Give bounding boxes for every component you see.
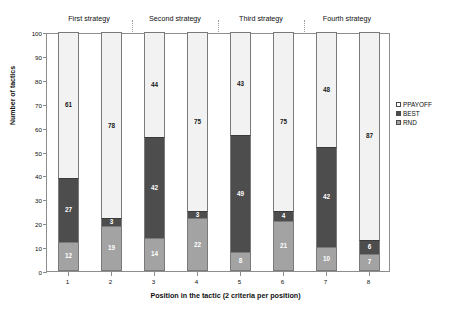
- bar-segment-rnd: 22: [187, 218, 208, 271]
- bar-segment-value: 61: [65, 102, 72, 108]
- bar-segment-value: 12: [65, 253, 72, 259]
- bar-column: 75421: [273, 32, 294, 271]
- bar-column: 78319: [101, 32, 122, 271]
- legend-label: PPAYOFF: [403, 101, 432, 108]
- x-tick-mark: [197, 272, 198, 276]
- chart-legend: PPAYOFFBESTRND: [396, 101, 432, 126]
- bar-segment-value: 21: [280, 243, 287, 249]
- bar-segment-ppayoff: 75: [273, 32, 294, 211]
- strategy-group-label: Second strategy: [149, 14, 201, 23]
- bar-segment-value: 75: [280, 119, 287, 125]
- bar-segment-best: 3: [187, 211, 208, 218]
- x-tick-mark: [283, 272, 284, 276]
- y-tick-label: 20: [18, 221, 42, 228]
- stacked-bar-chart: Number of tactics Position in the tactic…: [0, 0, 451, 310]
- x-tick-label: 3: [152, 278, 155, 285]
- bar-segment-rnd: 10: [316, 247, 337, 271]
- bar-segment-value: 6: [368, 244, 372, 250]
- bar-segment-rnd: 12: [58, 242, 79, 271]
- bar-segment-value: 7: [368, 259, 372, 265]
- bar-segment-rnd: 21: [273, 221, 294, 271]
- bar-segment-value: 48: [323, 87, 330, 93]
- legend-label: BEST: [403, 110, 420, 117]
- y-tick-label: 40: [18, 173, 42, 180]
- bar-segment-ppayoff: 43: [230, 32, 251, 135]
- x-tick-mark: [154, 272, 155, 276]
- bar-segment-best: 3: [101, 218, 122, 225]
- bar-segment-value: 10: [323, 256, 330, 262]
- legend-swatch-icon: [396, 102, 401, 107]
- y-tick-label: 70: [18, 101, 42, 108]
- bar-segment-value: 8: [239, 258, 243, 264]
- bar-segment-value: 19: [108, 245, 115, 251]
- legend-label: RND: [403, 119, 417, 126]
- x-tick-mark: [111, 272, 112, 276]
- bar-column: 612712: [58, 32, 79, 271]
- x-tick-mark: [240, 272, 241, 276]
- bar-column: 75322: [187, 32, 208, 271]
- legend-item[interactable]: BEST: [396, 110, 432, 117]
- bar-segment-value: 14: [151, 251, 158, 257]
- bar-segment-rnd: 7: [359, 254, 380, 271]
- y-tick-label: 100: [18, 30, 42, 37]
- bar-segment-value: 27: [65, 207, 72, 213]
- bar-segment-ppayoff: 87: [359, 32, 380, 240]
- x-tick-mark: [68, 272, 69, 276]
- x-axis-title: Position in the tactic (2 criteria per p…: [0, 291, 451, 300]
- bar-segment-best: 42: [144, 137, 165, 237]
- y-tick-label: 30: [18, 197, 42, 204]
- x-tick-mark: [369, 272, 370, 276]
- x-tick-label: 6: [281, 278, 284, 285]
- bar-segment-ppayoff: 78: [101, 32, 122, 218]
- bar-segment-ppayoff: 44: [144, 32, 165, 137]
- bar-segment-value: 49: [237, 191, 244, 197]
- bar-column: 43498: [230, 32, 251, 271]
- bar-segment-value: 78: [108, 123, 115, 129]
- bar-segment-ppayoff: 61: [58, 32, 79, 178]
- bar-segment-ppayoff: 48: [316, 32, 337, 147]
- x-tick-mark: [326, 272, 327, 276]
- bar-segment-rnd: 8: [230, 252, 251, 271]
- bar-segment-best: 6: [359, 240, 380, 254]
- bar-segment-value: 42: [151, 185, 158, 191]
- y-axis-title: Number of tactics: [9, 26, 16, 166]
- strategy-group-label: Third strategy: [239, 14, 283, 23]
- legend-swatch-icon: [396, 120, 401, 125]
- bar-segment-value: 4: [282, 213, 286, 219]
- x-tick-label: 1: [66, 278, 69, 285]
- bar-segment-value: 22: [194, 242, 201, 248]
- bar-column: 484210: [316, 32, 337, 271]
- bar-column: 8767: [359, 32, 380, 271]
- strategy-group-label: Fourth strategy: [323, 14, 371, 23]
- bar-segment-rnd: 19: [101, 226, 122, 271]
- x-tick-label: 4: [195, 278, 198, 285]
- y-tick-label: 10: [18, 245, 42, 252]
- y-tick-mark: [43, 272, 47, 273]
- legend-swatch-icon: [396, 111, 401, 116]
- bar-segment-best: 49: [230, 135, 251, 252]
- x-tick-label: 7: [324, 278, 327, 285]
- bar-segment-value: 44: [151, 82, 158, 88]
- x-tick-label: 2: [109, 278, 112, 285]
- bar-segment-rnd: 14: [144, 238, 165, 271]
- bar-segment-best: 4: [273, 211, 294, 221]
- x-tick-label: 5: [238, 278, 241, 285]
- bar-segment-best: 42: [316, 147, 337, 247]
- bar-segment-value: 87: [366, 133, 373, 139]
- y-tick-label: 0: [18, 269, 42, 276]
- plot-area: 6127127831944421475322434987542148421087…: [46, 33, 390, 272]
- bar-segment-value: 43: [237, 81, 244, 87]
- legend-item[interactable]: PPAYOFF: [396, 101, 432, 108]
- y-tick-label: 50: [18, 149, 42, 156]
- legend-item[interactable]: RND: [396, 119, 432, 126]
- y-tick-label: 80: [18, 77, 42, 84]
- bar-segment-value: 42: [323, 194, 330, 200]
- y-tick-label: 90: [18, 53, 42, 60]
- bar-segment-value: 75: [194, 119, 201, 125]
- bar-segment-ppayoff: 75: [187, 32, 208, 211]
- strategy-group-label: First strategy: [68, 14, 110, 23]
- x-tick-label: 8: [367, 278, 370, 285]
- y-tick-label: 60: [18, 125, 42, 132]
- bar-segment-best: 27: [58, 178, 79, 243]
- bar-column: 444214: [144, 32, 165, 271]
